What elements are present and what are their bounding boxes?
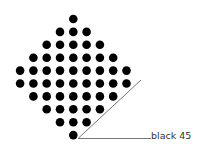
black-dot [29,66,38,75]
black-dot [69,53,78,62]
black-dot [56,41,65,50]
black-dot [82,41,91,50]
black-dot [56,118,65,127]
black-dot [82,28,91,37]
black-dot [29,53,38,62]
black-dot [56,53,65,62]
black-dot [69,92,78,101]
black-dot [82,105,91,114]
black-dot [42,105,51,114]
black-dot [69,66,78,75]
black-dot [42,41,51,50]
black-dot [69,28,78,37]
black-dot [29,92,38,101]
black-dot [82,118,91,127]
black-dot [109,53,118,62]
black-dot [29,79,38,88]
black-dot [42,92,51,101]
black-dot [56,28,65,37]
black-dot [82,66,91,75]
black-dot [96,53,105,62]
black-dot [56,105,65,114]
black-dot [69,105,78,114]
dot-diamond-diagram [0,0,201,149]
black-dot [122,79,131,88]
black-dot [56,66,65,75]
black-dot [69,118,78,127]
black-dot [56,79,65,88]
black-dot [109,66,118,75]
black-dot [96,66,105,75]
black-dot [69,131,78,140]
black-dot [96,105,105,114]
black-dot [16,79,25,88]
black-dot [42,79,51,88]
black-dot [56,92,65,101]
black-dot [82,79,91,88]
black-dot [96,92,105,101]
black-dot [109,79,118,88]
black-dot [96,79,105,88]
black-dot [82,53,91,62]
black-dot [16,66,25,75]
black-dot [109,92,118,101]
black-dot [82,92,91,101]
black-dot [42,66,51,75]
black-dots-group [16,15,131,140]
black-dot [69,79,78,88]
black-dot [69,41,78,50]
black-dot [69,15,78,24]
dot-count-label: black 45 [151,131,191,141]
black-dot [42,53,51,62]
black-dot [96,41,105,50]
black-dot [122,66,131,75]
